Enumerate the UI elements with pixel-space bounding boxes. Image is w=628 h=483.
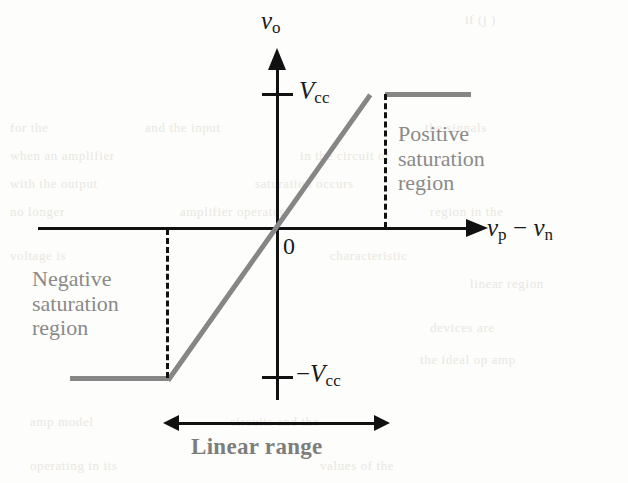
linear-range-arrowhead-right-icon xyxy=(374,415,390,431)
positive-saturation-region-label: Positive saturation region xyxy=(398,122,485,196)
negative-saturation-region-label: Negative saturation region xyxy=(32,267,119,341)
curve-negative-saturation-segment xyxy=(70,376,168,381)
x-axis-label-var1: v xyxy=(487,214,498,241)
tick-label-positive-vcc: Vcc xyxy=(299,78,330,106)
ghost-text-line: in the circuit of xyxy=(300,148,390,164)
tick-label-negative-var: V xyxy=(310,360,325,387)
origin-label: 0 xyxy=(283,234,295,258)
x-axis-label: vp − vn xyxy=(487,215,553,243)
tick-label-negative-vcc: −Vcc xyxy=(296,361,341,389)
tick-mark-negative-vcc xyxy=(262,376,293,379)
opamp-transfer-characteristic-figure: if (j )for theand the inputthe signalswh… xyxy=(0,0,628,483)
ghost-text-line: with the output xyxy=(10,176,98,192)
curve-positive-saturation-segment xyxy=(385,92,471,97)
y-axis-arrowhead-icon xyxy=(268,48,286,70)
ghost-text-line: amplifier operates xyxy=(180,204,285,220)
linear-range-label: Linear range xyxy=(191,434,323,460)
x-axis-label-sub1: p xyxy=(498,225,507,244)
tick-label-negative-prefix: − xyxy=(296,360,310,387)
tick-label-positive-sub: cc xyxy=(314,88,330,107)
x-axis-label-sub2: n xyxy=(545,225,554,244)
tick-label-negative-sub: cc xyxy=(325,371,341,390)
x-axis-label-minus: − xyxy=(507,214,534,241)
ghost-text-line: if (j ) xyxy=(465,12,496,28)
y-axis-label: vo xyxy=(261,8,281,36)
ghost-text-line: values of the xyxy=(320,458,394,474)
y-axis-line xyxy=(276,66,279,400)
ghost-text-line: for the xyxy=(10,120,49,136)
tick-label-positive-var: V xyxy=(299,77,314,104)
ghost-text-line: linear region xyxy=(470,276,544,292)
ghost-text-line: the ideal op amp xyxy=(420,352,516,368)
curve-linear-segment xyxy=(166,94,372,382)
ghost-text-line: when an amplifier xyxy=(10,148,115,164)
tick-mark-positive-vcc xyxy=(262,93,293,96)
linear-range-arrowhead-left-icon xyxy=(163,415,179,431)
y-axis-label-var: v xyxy=(261,7,272,34)
ghost-text-line: operating in its xyxy=(30,458,118,474)
ghost-text-line: devices are xyxy=(430,320,495,336)
x-axis-arrowhead-icon xyxy=(466,219,488,237)
linear-range-arrow-bar xyxy=(175,422,378,425)
ghost-text-line: characteristic xyxy=(330,248,408,264)
y-axis-label-sub: o xyxy=(272,18,281,37)
dashed-guide-negative-knee xyxy=(166,229,169,378)
x-axis-line xyxy=(38,227,470,230)
ghost-text-line: voltage is xyxy=(10,248,66,264)
ghost-text-line: amp model xyxy=(30,414,94,430)
ghost-text-line: and the input xyxy=(145,120,221,136)
dashed-guide-positive-knee xyxy=(384,94,387,228)
ghost-text-line: no longer xyxy=(10,204,65,220)
x-axis-label-var2: v xyxy=(533,214,544,241)
